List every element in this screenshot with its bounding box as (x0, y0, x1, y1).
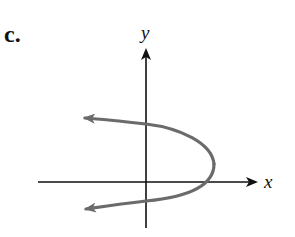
x-axis-label: x (263, 171, 273, 192)
parabola-lower-branch (86, 164, 214, 209)
parabola-upper-branch (85, 118, 214, 164)
coordinate-plane: y x (0, 0, 295, 237)
y-axis-label: y (139, 22, 150, 43)
graph-figure: c. y x (0, 0, 295, 237)
